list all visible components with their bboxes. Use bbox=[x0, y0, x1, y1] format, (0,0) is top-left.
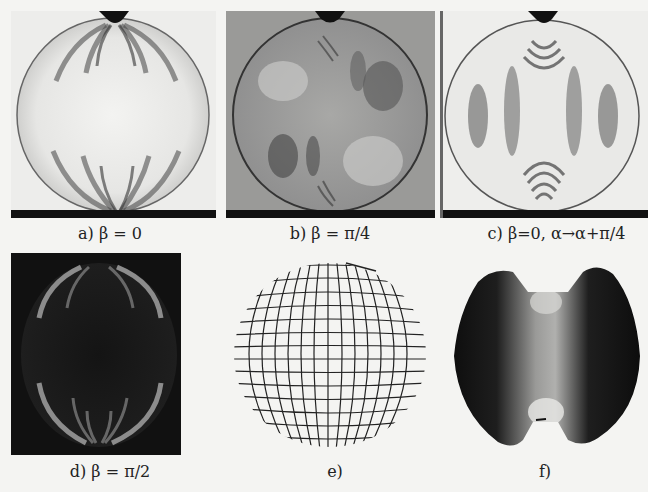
panel-c-image bbox=[440, 11, 648, 218]
panel-b-image bbox=[223, 11, 435, 218]
caption-f: f) bbox=[530, 462, 560, 481]
caption-d: d) β = π/2 bbox=[50, 462, 170, 481]
caption-c: c) β=0, α→α+π/4 bbox=[464, 224, 648, 243]
panel-a-image bbox=[11, 11, 216, 218]
panel-d-image bbox=[11, 253, 181, 455]
panel-e-image bbox=[228, 255, 428, 450]
caption-a: a) β = 0 bbox=[50, 224, 170, 243]
panel-f-image bbox=[448, 262, 643, 450]
caption-e: e) bbox=[320, 462, 350, 481]
caption-b: b) β = π/4 bbox=[270, 224, 390, 243]
